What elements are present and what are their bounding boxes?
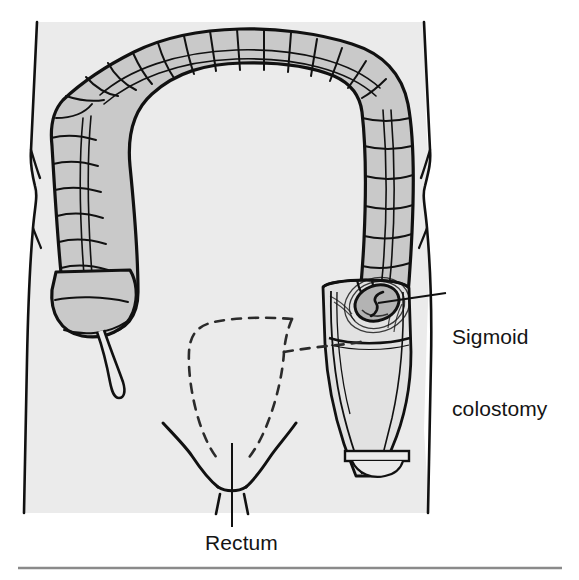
- label-sigmoid-colostomy-line2: colostomy: [452, 397, 547, 421]
- label-rectum: Rectum: [205, 531, 278, 555]
- figure-root: Sigmoid colostomy Rectum: [0, 0, 579, 580]
- label-sigmoid-colostomy: Sigmoid colostomy: [452, 277, 547, 469]
- cecum: [52, 270, 137, 337]
- label-sigmoid-colostomy-line1: Sigmoid: [452, 325, 547, 349]
